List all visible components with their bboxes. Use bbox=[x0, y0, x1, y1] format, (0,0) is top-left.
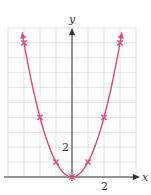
curve-arrow-icon bbox=[20, 32, 26, 38]
y-tick-label-2: 2 bbox=[62, 141, 69, 154]
axes: x y 2 2 bbox=[4, 13, 149, 193]
x-axis-label: x bbox=[142, 171, 149, 184]
parabola-chart: x y 2 2 bbox=[0, 0, 151, 195]
x-tick-label-2: 2 bbox=[101, 180, 108, 193]
y-axis-label: y bbox=[68, 13, 76, 26]
x-axis-arrow-icon bbox=[133, 174, 140, 180]
curve-arrow-icon bbox=[118, 32, 124, 38]
y-axis-arrow-icon bbox=[69, 28, 75, 35]
